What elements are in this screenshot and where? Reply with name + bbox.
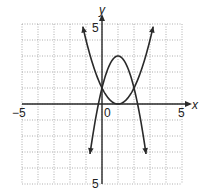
x-axis-label: x <box>191 98 199 112</box>
x-min-tick-label: −5 <box>12 106 26 120</box>
origin-label: 0 <box>104 106 111 120</box>
y-axis-label: y <box>98 3 106 17</box>
y-max-tick-label: 5 <box>92 21 99 35</box>
y-min-tick-label: 5 <box>92 177 99 191</box>
axes <box>22 14 192 184</box>
x-max-tick-label: 5 <box>178 106 185 120</box>
graph: y x −5 5 0 5 5 <box>0 0 205 195</box>
